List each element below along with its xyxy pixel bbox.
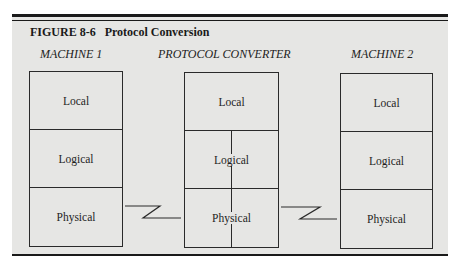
layer-label: Logical <box>213 154 250 166</box>
layer-label: Local <box>217 96 245 108</box>
layer-label: Local <box>62 95 90 107</box>
physical-link-connectors <box>0 0 470 269</box>
layer-label: Logical <box>57 153 94 165</box>
layer-label: Physical <box>366 213 407 225</box>
link-converter-to-machine2 <box>281 207 337 219</box>
layer-label: Local <box>372 97 400 109</box>
layer-label: Physical <box>211 212 252 224</box>
link-machine1-to-converter <box>125 206 181 218</box>
layer-label: Logical <box>368 155 405 167</box>
layer-label: Physical <box>56 211 97 223</box>
